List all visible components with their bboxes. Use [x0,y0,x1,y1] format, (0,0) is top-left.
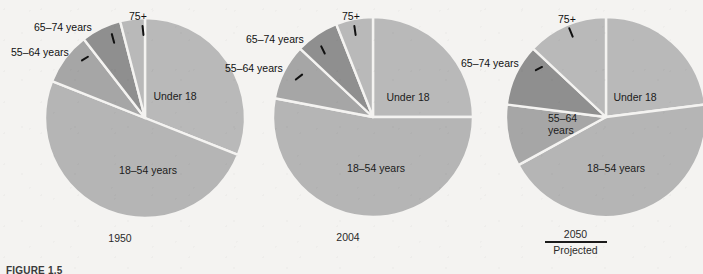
year-label-2004: 2004 [228,231,468,243]
year-label-2050-group: 2050 Projected [448,228,703,256]
slice-label-55-64-2050-line2: years [548,124,574,136]
pie-svg-2050: Under 18 18–54 years 55–64 years [448,0,703,230]
pie-svg-1950: Under 18 18–54 years [0,0,240,230]
callout-label-75plus-2004: 75+ [342,11,360,23]
projected-label: Projected [448,244,703,256]
slice-label-under18-2004: Under 18 [386,91,429,103]
year-label-divider [545,241,607,243]
slice-label-55-64-2050-line1: 55–64 [548,112,577,124]
callout-label-75plus-2050: 75+ [558,14,576,26]
callout-label-65-74-2004: 65–74 years [246,34,304,46]
slice-label-under18-2050: Under 18 [613,91,656,103]
pie-chart-2004: Under 18 18–54 years 75+ 65–74 years 55–… [228,0,468,274]
slice-label-under18-1950: Under 18 [153,90,196,102]
figure-caption: FIGURE 1.5 [6,265,62,274]
callout-label-65-74-2050: 65–74 years [461,58,519,70]
callout-label-75plus-1950: 75+ [129,11,147,23]
year-label-1950: 1950 [0,232,240,244]
callout-label-55-64-1950: 55–64 years [11,47,69,59]
callout-label-65-74-1950: 65–74 years [34,22,92,34]
slice-label-18-54-1950: 18–54 years [119,164,177,176]
year-label-2050: 2050 [448,228,703,240]
callout-label-55-64-2004: 55–64 years [225,63,283,75]
slice-label-18-54-2050: 18–54 years [587,162,645,174]
slice-label-18-54-2004: 18–54 years [347,162,405,174]
pie-chart-1950: Under 18 18–54 years 65–74 years 75+ 55–… [0,0,240,274]
figure-canvas: Under 18 18–54 years 65–74 years 75+ 55–… [0,0,703,274]
pie-chart-2050: Under 18 18–54 years 55–64 years 75+ 65–… [448,0,703,274]
